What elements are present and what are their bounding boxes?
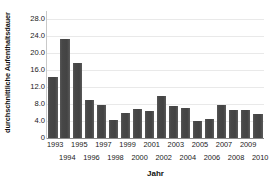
bar[interactable] <box>229 110 238 138</box>
bar-slot <box>95 11 107 138</box>
x-tick-label: 1998 <box>107 154 119 162</box>
y-tick-label: 16.0 <box>1 66 45 74</box>
bar[interactable] <box>205 119 214 138</box>
x-tick-label: 2008 <box>228 154 240 162</box>
bar-slot <box>252 11 264 138</box>
x-tick-label: 2002 <box>156 154 168 162</box>
x-axis-title: Jahr <box>47 169 264 178</box>
y-axis-tick-labels: 04.08.012.016.020.024.028.0 <box>0 11 45 138</box>
bar-slot <box>192 11 204 138</box>
bar[interactable] <box>145 111 154 138</box>
bar-slot <box>71 11 83 138</box>
bar[interactable] <box>133 109 142 138</box>
bar-slot <box>156 11 168 138</box>
y-tick-label: 28.0 <box>1 16 45 24</box>
bar-slot <box>204 11 216 138</box>
x-axis-tick-labels: 1993199419951996199719981999200020012002… <box>47 139 264 169</box>
bar-slot <box>83 11 95 138</box>
bar-slot <box>47 11 59 138</box>
bar[interactable] <box>181 108 190 138</box>
x-tick-label: 1997 <box>95 141 107 149</box>
bar-slot <box>59 11 71 138</box>
bar-slot <box>240 11 252 138</box>
bar-slot <box>143 11 155 138</box>
x-tick-label: 2006 <box>204 154 216 162</box>
y-tick-label: 0 <box>1 134 45 142</box>
x-tick-label: 2004 <box>180 154 192 162</box>
x-tick-label: 2009 <box>240 141 252 149</box>
bar[interactable] <box>73 63 82 138</box>
bar-slot <box>131 11 143 138</box>
bar[interactable] <box>253 114 262 138</box>
bar-slot <box>168 11 180 138</box>
bar-slot <box>180 11 192 138</box>
x-tick-label: 2005 <box>192 141 204 149</box>
bar-chart: durchschnittliche Aufenthaltsdauer 04.08… <box>0 0 271 187</box>
x-tick-label: 1995 <box>71 141 83 149</box>
bar[interactable] <box>48 77 57 138</box>
bar-slot <box>107 11 119 138</box>
bar[interactable] <box>241 110 250 138</box>
bar[interactable] <box>60 39 69 138</box>
bar[interactable] <box>157 96 166 138</box>
bar[interactable] <box>193 121 202 138</box>
bar[interactable] <box>121 113 130 138</box>
x-tick-label: 2001 <box>143 141 155 149</box>
bar-slot <box>119 11 131 138</box>
y-tick-label: 24.0 <box>1 33 45 41</box>
x-tick-label: 1999 <box>119 141 131 149</box>
x-tick-label: 2003 <box>168 141 180 149</box>
bar[interactable] <box>97 105 106 138</box>
x-tick-label: 1996 <box>83 154 95 162</box>
bar[interactable] <box>109 120 118 138</box>
y-tick-label: 12.0 <box>1 83 45 91</box>
x-tick-label: 2007 <box>216 141 228 149</box>
x-tick-label: 2010 <box>252 154 264 162</box>
plot-area <box>47 11 264 138</box>
bar[interactable] <box>217 105 226 138</box>
bar[interactable] <box>169 106 178 138</box>
bar-slot <box>216 11 228 138</box>
x-tick-label: 1994 <box>59 154 71 162</box>
y-tick-label: 20.0 <box>1 50 45 58</box>
y-tick-label: 8.0 <box>1 100 45 108</box>
bar[interactable] <box>85 100 94 138</box>
y-tick-label: 4.0 <box>1 117 45 125</box>
x-tick-label: 1993 <box>47 141 59 149</box>
bar-slot <box>228 11 240 138</box>
x-tick-label: 2000 <box>131 154 143 162</box>
